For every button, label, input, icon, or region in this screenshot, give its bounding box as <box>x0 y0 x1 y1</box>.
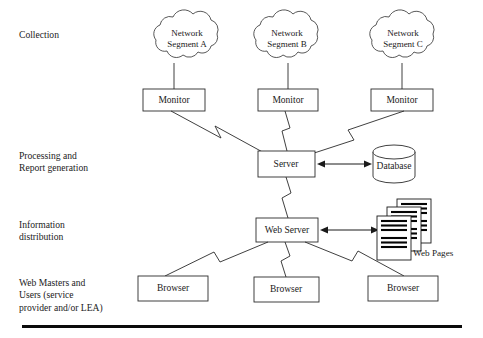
web-server-node: Web Server <box>256 218 318 242</box>
browser-1-node: Browser <box>138 276 208 301</box>
web-server-label: Web Server <box>265 225 310 235</box>
database-label: Database <box>377 161 412 171</box>
lightning-webserver-browser-2 <box>281 242 290 277</box>
lightning-monitor-a-server <box>171 111 268 155</box>
cloud-segment-c: Network Segment C <box>370 10 434 58</box>
cloud-segment-a-line1: Network <box>171 28 203 38</box>
server-label: Server <box>274 159 300 169</box>
architecture-diagram: Collection Processing and Report generat… <box>0 0 483 338</box>
cloud-segment-a-line2: Segment A <box>167 39 207 49</box>
cloud-segment-b: Network Segment B <box>254 10 318 58</box>
monitor-b-label: Monitor <box>272 95 304 105</box>
lightning-server-webserver <box>282 177 291 218</box>
cloud-segment-b-line2: Segment B <box>267 39 307 49</box>
monitor-a-label: Monitor <box>158 95 190 105</box>
browser-3-label: Browser <box>387 283 420 293</box>
monitor-c-label: Monitor <box>386 95 418 105</box>
cloud-segment-c-line2: Segment C <box>383 39 423 49</box>
browser-3-node: Browser <box>368 276 438 301</box>
cloud-segment-c-line1: Network <box>387 28 419 38</box>
monitor-c-node: Monitor <box>371 89 433 111</box>
web-pages-node: Web Pages <box>377 199 454 260</box>
cloud-segment-a: Network Segment A <box>154 10 218 58</box>
monitor-b-node: Monitor <box>258 89 318 111</box>
browser-1-label: Browser <box>157 283 190 293</box>
connector-server-database <box>317 161 372 168</box>
database-node: Database <box>373 145 415 183</box>
web-pages-label: Web Pages <box>413 248 454 258</box>
monitor-a-node: Monitor <box>143 89 205 111</box>
connector-webserver-webpages <box>320 227 379 234</box>
lightning-webserver-browser-1 <box>165 242 268 276</box>
browser-2-label: Browser <box>270 284 303 294</box>
bottom-rule <box>22 325 462 328</box>
web-pages-sheet-front <box>377 216 411 260</box>
cloud-segment-b-line1: Network <box>271 28 303 38</box>
browser-2-node: Browser <box>254 277 319 302</box>
lightning-monitor-b-server <box>282 111 290 155</box>
server-node: Server <box>258 151 315 177</box>
